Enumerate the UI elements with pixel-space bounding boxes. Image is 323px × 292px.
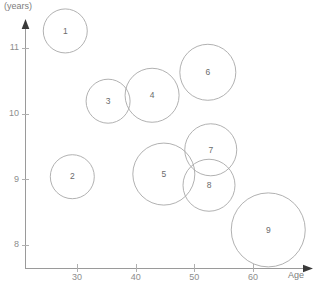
x-axis-ticks: 30405060 (72, 264, 258, 282)
bubble-chart: 30405060 891011 123456789 (years) Age (0, 0, 323, 292)
bubble-label: 4 (150, 90, 155, 100)
bubble-point: 4 (125, 68, 179, 122)
x-tick-label: 60 (248, 272, 258, 282)
bubble-label: 5 (161, 169, 166, 179)
bubble-point: 2 (50, 155, 94, 199)
y-tick-label: 9 (14, 174, 19, 184)
bubble-label: 9 (266, 225, 271, 235)
y-tick-label: 8 (14, 239, 19, 249)
y-axis-arrow-icon (22, 19, 30, 29)
x-tick-label: 40 (131, 272, 141, 282)
bubble-series: 123456789 (43, 9, 305, 267)
x-axis-title: Age (288, 270, 304, 280)
x-tick-label: 30 (72, 272, 82, 282)
x-axis-arrow-icon (303, 265, 313, 273)
y-tick-label: 11 (10, 42, 19, 52)
bubble-label: 8 (207, 180, 212, 190)
x-tick-label: 50 (189, 272, 199, 282)
y-axis-title: (years) (4, 1, 32, 11)
bubble-point: 1 (43, 9, 87, 53)
bubble-point: 6 (180, 44, 236, 100)
bubble-label: 3 (106, 96, 111, 106)
bubble-point: 9 (231, 193, 305, 267)
chart-canvas: 30405060 891011 123456789 (years) Age (0, 0, 323, 292)
bubble-point: 3 (86, 79, 130, 123)
bubble-label: 7 (208, 145, 213, 155)
bubble-label: 1 (63, 26, 68, 36)
bubble-point: 8 (183, 159, 235, 211)
y-tick-label: 10 (9, 108, 19, 118)
bubble-label: 6 (205, 67, 210, 77)
bubble-label: 2 (70, 171, 75, 181)
